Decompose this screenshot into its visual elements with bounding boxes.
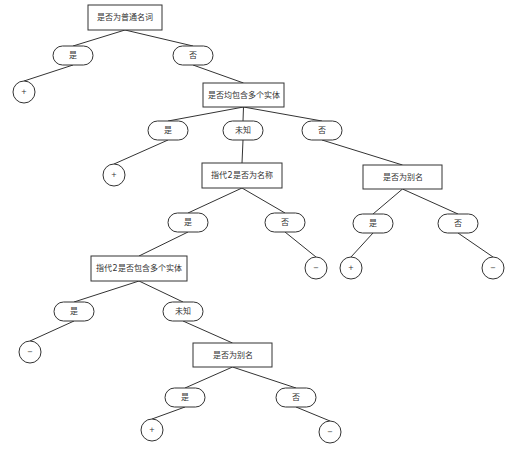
branch-node: 否 <box>276 388 316 407</box>
edge-n3-b6 <box>188 188 242 213</box>
decision-tree-diagram: 是否为普通名词是否+是否均包含多个实体是未知否+指代2是否为名称是否为别名是否是… <box>0 0 514 450</box>
leaf-node: + <box>13 81 35 103</box>
leaf-node: + <box>103 164 125 186</box>
leaf-node: + <box>340 257 362 279</box>
decision-label: 指代2是否包含多个实体 <box>96 263 181 273</box>
decision-label: 是否为普通名词 <box>97 12 153 22</box>
branch-label: 否 <box>318 126 326 135</box>
leaf-label: − <box>27 348 33 356</box>
decision-node: 指代2是否包含多个实体 <box>91 256 187 281</box>
leaf-node: − <box>19 341 41 363</box>
decision-label: 是否为别名 <box>213 350 253 360</box>
edge-n6-b13 <box>233 367 297 388</box>
decision-label: 是否均包含多个实体 <box>208 90 280 100</box>
edge-b9-l5 <box>458 233 493 257</box>
branch-label: 未知 <box>175 306 191 316</box>
edge-b7-l3 <box>285 232 316 257</box>
edge-n4-b8 <box>373 189 403 214</box>
branch-node: 是 <box>54 302 94 321</box>
branch-node: 未知 <box>163 302 203 321</box>
branch-label: 是 <box>181 393 189 402</box>
decision-node: 指代2是否为名称 <box>202 163 282 188</box>
edge-b2-n2 <box>193 65 244 83</box>
edge-b13-l8 <box>296 407 330 421</box>
branch-node: 是 <box>353 214 393 233</box>
leaf-label: − <box>490 264 496 272</box>
edge-n6-b12 <box>185 367 233 388</box>
branch-node: 否 <box>173 46 213 65</box>
branch-label: 否 <box>454 219 462 228</box>
leaf-node: + <box>141 419 163 441</box>
edge-n2-b4 <box>243 107 244 121</box>
branch-label: 是 <box>184 218 192 227</box>
branch-node: 是 <box>168 213 208 232</box>
decision-label: 是否为别名 <box>383 172 423 182</box>
edge-b12-l7 <box>152 407 185 419</box>
nodes-layer: 是否为普通名词是否+是否均包含多个实体是未知否+指代2是否为名称是否为别名是否是… <box>13 5 504 443</box>
edge-b5-n4 <box>322 140 403 165</box>
edge-b8-l4 <box>351 233 373 257</box>
branch-node: 否 <box>438 214 478 233</box>
branch-node: 否 <box>265 213 305 232</box>
branch-label: 是 <box>369 219 377 228</box>
leaf-label: − <box>313 264 319 272</box>
leaf-label: + <box>348 264 354 272</box>
decision-node: 是否为普通名词 <box>88 5 162 30</box>
leaf-label: + <box>21 88 27 96</box>
edge-b6-n5 <box>139 232 188 256</box>
edge-b4-n3 <box>242 140 243 163</box>
branch-node: 是 <box>53 46 93 65</box>
edge-n2-b5 <box>244 107 323 121</box>
edge-n1-b1 <box>73 30 125 46</box>
branch-label: 未知 <box>235 125 251 135</box>
decision-node: 是否为别名 <box>193 343 272 367</box>
leaf-node: − <box>305 257 327 279</box>
branch-label: 否 <box>189 51 197 60</box>
branch-label: 是 <box>69 51 77 60</box>
branch-label: 是 <box>70 307 78 316</box>
branch-label: 否 <box>281 218 289 227</box>
edge-b3-l2 <box>114 140 168 164</box>
edge-n5-b10 <box>74 281 139 302</box>
edge-b10-l6 <box>30 321 74 341</box>
branch-node: 是 <box>148 121 188 140</box>
edge-n5-b11 <box>139 281 183 302</box>
leaf-node: − <box>319 421 341 443</box>
decision-node: 是否均包含多个实体 <box>203 83 284 107</box>
edge-n3-b7 <box>242 188 285 213</box>
branch-label: 否 <box>292 393 300 402</box>
edge-b11-n6 <box>183 321 233 343</box>
branch-node: 未知 <box>223 121 263 140</box>
edge-n4-b9 <box>403 189 459 214</box>
leaf-label: − <box>327 428 333 436</box>
leaf-node: − <box>482 257 504 279</box>
branch-node: 否 <box>302 121 342 140</box>
branch-label: 是 <box>164 126 172 135</box>
edge-n1-b2 <box>125 30 193 46</box>
edge-n2-b3 <box>168 107 244 121</box>
edge-b1-l1 <box>24 65 73 81</box>
branch-node: 是 <box>165 388 205 407</box>
decision-label: 指代2是否为名称 <box>211 170 272 180</box>
leaf-label: + <box>111 171 117 179</box>
decision-node: 是否为别名 <box>363 165 442 189</box>
leaf-label: + <box>149 426 155 434</box>
